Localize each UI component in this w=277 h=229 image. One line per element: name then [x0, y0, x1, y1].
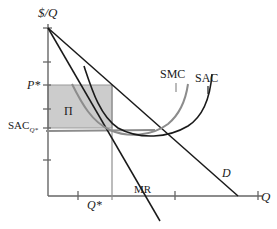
profit-symbol-label: Π	[64, 105, 73, 117]
quantity-star-label: Q*	[87, 199, 102, 211]
y-axis-label: $/Q	[38, 6, 58, 19]
sac-label: SAC	[195, 72, 218, 84]
sac-at-qstar-base: SAC	[8, 119, 29, 131]
monopoly-profit-diagram: $/Q P* SACQ* Π SMC SAC MR D Q* Q	[0, 0, 277, 229]
price-star-label: P*	[27, 79, 40, 91]
x-axis-label: Q	[261, 190, 270, 203]
demand-label: D	[222, 167, 231, 179]
sac-at-qstar-subscript: Q*	[29, 126, 38, 134]
smc-label: SMC	[160, 68, 185, 80]
sac-qstar-reference-line	[46, 130, 155, 131]
mr-label: MR	[134, 184, 151, 195]
sac-at-qstar-label: SACQ*	[8, 120, 38, 134]
